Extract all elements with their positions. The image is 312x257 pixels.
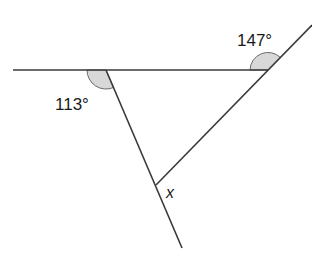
left-transversal xyxy=(106,70,182,248)
angle-label-113: 113° xyxy=(55,95,89,114)
unknown-angle-label: x xyxy=(165,184,175,201)
angle-label-147: 147° xyxy=(237,31,272,50)
angle-diagram: 113° 147° x xyxy=(0,0,312,257)
right-transversal xyxy=(156,25,312,185)
